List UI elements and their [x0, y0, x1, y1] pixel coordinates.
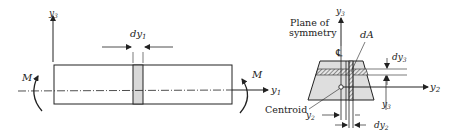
centerline-symbol: ℄	[335, 47, 343, 58]
centroid-marker	[339, 85, 343, 89]
beam-y3-label: y3	[48, 8, 58, 19]
vertical-strip-dy2	[349, 61, 353, 100]
dy1-label: dy1	[130, 28, 147, 41]
section-y2-label: y2	[429, 81, 441, 94]
horizontal-strip-dy3	[316, 69, 368, 75]
moment-left-arrow	[34, 76, 42, 111]
moment-left-label: M	[21, 72, 33, 83]
y3-dimension-label: y3	[381, 99, 391, 110]
centroid-label: Centroid	[265, 104, 307, 115]
beam-bending-diagram: y3 dy1 y1 M M y3 Plane of symmetry ℄	[0, 0, 449, 140]
dy3-label: dy3	[392, 52, 407, 63]
dA-label: dA	[360, 29, 374, 40]
section-y3-label: y3	[335, 6, 345, 17]
moment-right-label: M	[251, 69, 263, 80]
y2-dimension-label: y2	[305, 110, 315, 121]
beam-y1-label: y1	[270, 84, 281, 97]
beam-side-view: y3 dy1 y1 M M	[18, 8, 281, 113]
cross-section-view: y3 Plane of symmetry ℄ dy3 y2 y3 Cent	[265, 6, 441, 131]
beam-element-dy1	[133, 65, 143, 104]
moment-right-arrow	[240, 79, 248, 113]
dy2-label: dy2	[374, 120, 389, 131]
plane-of-symmetry-label-2: symmetry	[289, 27, 337, 38]
